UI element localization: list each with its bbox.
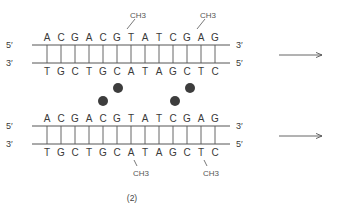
nucleotide-bottom: G bbox=[99, 66, 107, 77]
strand-end-label: 3′ bbox=[6, 139, 13, 149]
nucleotide-bottom: T bbox=[86, 66, 92, 77]
nucleotide-bottom: T bbox=[198, 147, 204, 158]
methyl-group-label: CH3 bbox=[130, 11, 147, 20]
strand-end-label: 3′ bbox=[6, 58, 13, 68]
nucleotide-top: G bbox=[183, 113, 191, 124]
methyl-group-label: CH3 bbox=[200, 11, 217, 20]
nucleotide-top: A bbox=[142, 32, 149, 43]
strand-end-label: 5′ bbox=[6, 121, 13, 131]
nucleotide-top: C bbox=[99, 32, 106, 43]
nucleotide-bottom: G bbox=[169, 66, 177, 77]
nucleotide-bottom: C bbox=[211, 147, 218, 158]
nucleotide-top: C bbox=[99, 113, 106, 124]
nucleotide-top: G bbox=[183, 32, 191, 43]
nucleotide-top: T bbox=[156, 113, 162, 124]
nucleotide-top: A bbox=[44, 113, 51, 124]
nucleotide-bottom: T bbox=[198, 66, 204, 77]
methyl-bond bbox=[127, 19, 135, 29]
nucleotide-bottom: C bbox=[113, 147, 120, 158]
strand-end-label: 5′ bbox=[236, 58, 243, 68]
nucleotide-bottom: A bbox=[156, 66, 163, 77]
nucleotide-top: T bbox=[128, 113, 134, 124]
nucleotide-top: T bbox=[156, 32, 162, 43]
dna-duplex-bottom: 5′3′3′5′ATCGGCATCGGCTAATTACGGCATGCCH3CH3 bbox=[6, 113, 322, 178]
strand-end-label: 3′ bbox=[236, 121, 243, 131]
nucleotide-bottom: A bbox=[156, 147, 163, 158]
methyl-group-label: CH3 bbox=[133, 169, 150, 178]
nucleotide-top: A bbox=[142, 113, 149, 124]
nucleotide-top: C bbox=[57, 113, 64, 124]
nucleotide-bottom: A bbox=[128, 66, 135, 77]
nucleotide-bottom: G bbox=[169, 147, 177, 158]
strand-end-label: 3′ bbox=[236, 40, 243, 50]
nucleotide-bottom: C bbox=[183, 147, 190, 158]
nucleotide-top: G bbox=[71, 113, 79, 124]
nucleotide-top: G bbox=[71, 32, 79, 43]
nucleotide-bottom: T bbox=[142, 66, 148, 77]
nucleotide-bottom: T bbox=[44, 66, 50, 77]
nucleotide-top: C bbox=[57, 32, 64, 43]
dna-methylation-diagram: 5′3′3′5′ATCGGCATCGGCTAATTACGGCATGCCH3CH3… bbox=[0, 0, 339, 210]
nucleotide-bottom: C bbox=[113, 66, 120, 77]
nucleotide-bottom: G bbox=[57, 147, 65, 158]
nucleotide-bottom: T bbox=[142, 147, 148, 158]
nucleotide-top: A bbox=[198, 32, 205, 43]
dot-1-icon bbox=[113, 83, 123, 93]
nucleotide-top: G bbox=[113, 32, 121, 43]
dot-3-icon bbox=[185, 83, 195, 93]
nucleotide-top: G bbox=[113, 113, 121, 124]
nucleotide-bottom: T bbox=[86, 147, 92, 158]
methyl-group-label: CH3 bbox=[203, 169, 220, 178]
nucleotide-top: A bbox=[198, 113, 205, 124]
nucleotide-bottom: C bbox=[71, 147, 78, 158]
figure-caption: (2) bbox=[127, 193, 138, 203]
nucleotide-bottom: A bbox=[128, 147, 135, 158]
nucleotide-top: A bbox=[86, 32, 93, 43]
strand-end-label: 5′ bbox=[236, 139, 243, 149]
nucleotide-bottom: C bbox=[183, 66, 190, 77]
nucleotide-bottom: C bbox=[211, 66, 218, 77]
methyl-bond bbox=[197, 19, 205, 29]
nucleotide-top: G bbox=[211, 113, 219, 124]
nucleotide-bottom: G bbox=[99, 147, 107, 158]
methyl-bond bbox=[134, 160, 137, 166]
dot-4-icon bbox=[170, 96, 180, 106]
nucleotide-top: G bbox=[211, 32, 219, 43]
nucleotide-bottom: T bbox=[44, 147, 50, 158]
nucleotide-top: A bbox=[44, 32, 51, 43]
methyl-bond bbox=[204, 160, 207, 166]
methylation-enzyme-dots bbox=[98, 83, 195, 106]
nucleotide-top: A bbox=[86, 113, 93, 124]
nucleotide-top: T bbox=[128, 32, 134, 43]
nucleotide-top: C bbox=[169, 113, 176, 124]
nucleotide-bottom: C bbox=[71, 66, 78, 77]
nucleotide-bottom: G bbox=[57, 66, 65, 77]
strand-end-label: 5′ bbox=[6, 40, 13, 50]
nucleotide-top: C bbox=[169, 32, 176, 43]
dot-2-icon bbox=[98, 96, 108, 106]
dna-duplex-top: 5′3′3′5′ATCGGCATCGGCTAATTACGGCATGCCH3CH3 bbox=[6, 11, 322, 77]
